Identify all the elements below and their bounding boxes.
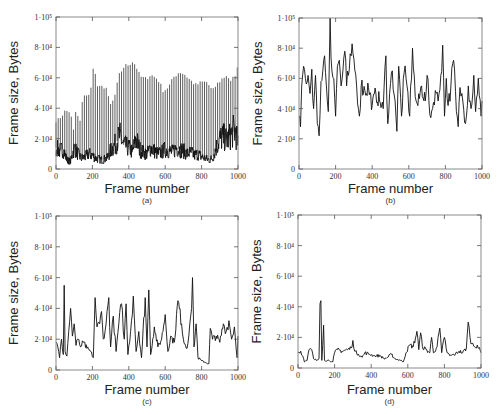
- y-axis-title: Frame size, Bytes: [6, 40, 21, 145]
- x-tick-label: 600: [159, 172, 171, 181]
- x-tick-label: 400: [366, 172, 378, 181]
- y-tick-label: 2·10⁴: [35, 335, 53, 344]
- x-tick-label: 1000: [474, 172, 490, 181]
- y-axis-title: Frame size, Bytes: [250, 41, 265, 146]
- series-line: [298, 301, 481, 362]
- y-tick-label: 2·10⁴: [278, 135, 296, 144]
- y-tick-label: 8·10⁴: [35, 43, 53, 52]
- x-tick-label: 800: [196, 373, 208, 382]
- y-tick-label: 6·10⁴: [35, 274, 53, 283]
- x-tick-label: 1000: [230, 172, 246, 181]
- x-tick-label: 400: [123, 373, 135, 382]
- x-tick-label: 0: [297, 172, 301, 181]
- x-axis-title: Frame number: [104, 382, 190, 397]
- x-axis-title: Frame number: [347, 382, 433, 397]
- y-tick-label: 1·10⁵: [35, 212, 53, 221]
- chart-panel-d: 0200400600800100002·10⁴4·10⁴6·10⁴8·10⁴1·…: [249, 211, 489, 406]
- y-tick-label: 4·10⁴: [277, 303, 295, 312]
- x-tick-label: 800: [438, 371, 450, 380]
- series-line: [299, 18, 482, 136]
- x-tick-label: 400: [123, 172, 135, 181]
- y-tick-label: 1·10⁵: [35, 13, 53, 22]
- x-tick-label: 200: [86, 172, 98, 181]
- y-tick-label: 1·10⁵: [278, 14, 296, 23]
- x-tick-label: 200: [330, 172, 342, 181]
- y-tick-label: 0: [48, 165, 52, 174]
- y-tick-label: 4·10⁴: [278, 105, 296, 114]
- y-axis-title: Frame size, Bytes: [6, 240, 21, 345]
- y-tick-label: 0: [290, 364, 294, 373]
- iframe-spikes: [56, 62, 237, 160]
- y-tick-label: 0: [48, 366, 52, 375]
- y-tick-label: 8·10⁴: [35, 243, 53, 252]
- y-tick-label: 2·10⁴: [277, 333, 295, 342]
- x-tick-label: 800: [196, 172, 208, 181]
- x-tick-label: 600: [159, 373, 171, 382]
- y-tick-label: 6·10⁴: [277, 272, 295, 281]
- x-axis-title: Frame number: [348, 181, 434, 196]
- chart-panel-a: 0200400600800100002·10⁴4·10⁴6·10⁴8·10⁴1·…: [6, 13, 246, 205]
- x-tick-label: 0: [54, 373, 58, 382]
- chart-panel-b: 0200400600800100002·10⁴4·10⁴6·10⁴8·10⁴1·…: [250, 14, 490, 205]
- chart-panel-c: 0200400600800100002·10⁴4·10⁴6·10⁴8·10⁴1·…: [6, 212, 246, 406]
- panel-caption: (d): [385, 397, 395, 406]
- x-tick-label: 600: [403, 172, 415, 181]
- x-tick-label: 200: [86, 373, 98, 382]
- y-tick-label: 8·10⁴: [278, 44, 296, 53]
- y-tick-label: 6·10⁴: [278, 74, 296, 83]
- y-tick-label: 6·10⁴: [35, 74, 53, 83]
- x-tick-label: 0: [296, 371, 300, 380]
- panel-caption: (c): [142, 397, 152, 406]
- y-tick-label: 1·10⁵: [277, 211, 295, 220]
- plot-frame: [298, 215, 481, 368]
- x-tick-label: 400: [365, 371, 377, 380]
- y-tick-label: 8·10⁴: [277, 242, 295, 251]
- series-line: [56, 278, 238, 364]
- x-axis-title: Frame number: [104, 181, 190, 196]
- x-tick-label: 800: [439, 172, 451, 181]
- x-tick-label: 1000: [230, 373, 246, 382]
- panel-caption: (a): [142, 196, 152, 205]
- figure: 0200400600800100002·10⁴4·10⁴6·10⁴8·10⁴1·…: [0, 0, 500, 415]
- y-tick-label: 2·10⁴: [35, 135, 53, 144]
- y-tick-label: 0: [291, 165, 295, 174]
- x-tick-label: 200: [329, 371, 341, 380]
- y-tick-label: 4·10⁴: [35, 104, 53, 113]
- x-tick-label: 600: [402, 371, 414, 380]
- y-axis-title: Frame size, Bytes: [249, 239, 264, 344]
- x-tick-label: 0: [54, 172, 58, 181]
- panel-caption: (b): [386, 196, 396, 205]
- x-tick-label: 1000: [473, 371, 489, 380]
- y-tick-label: 4·10⁴: [35, 304, 53, 313]
